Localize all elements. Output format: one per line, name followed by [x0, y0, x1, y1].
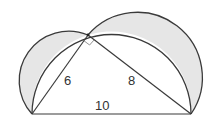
right-angle-marker [84, 40, 94, 45]
lune-diagram: 6 8 10 [0, 0, 212, 122]
lune-left [19, 31, 88, 114]
label-leg-cb: 8 [128, 73, 135, 88]
label-hypotenuse: 10 [95, 98, 109, 113]
vertex-c [87, 34, 90, 37]
label-leg-ac: 6 [64, 73, 71, 88]
